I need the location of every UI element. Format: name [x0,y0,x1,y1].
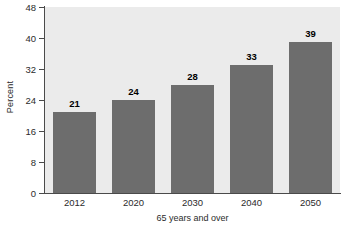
y-axis-tick [39,100,45,101]
bar [171,85,213,194]
y-axis-tick [39,193,45,194]
y-axis-tick [39,7,45,8]
y-axis-tick-label: 24 [6,95,36,106]
bar [53,112,95,193]
y-axis-tick-label: 0 [6,188,36,199]
y-axis-tick [39,69,45,70]
x-axis-tick-label: 2040 [227,197,277,208]
bar-value-label: 33 [232,51,272,62]
y-axis-tick-label: 40 [6,33,36,44]
x-axis-tick-label: 2020 [109,197,159,208]
bar [230,65,272,193]
y-axis-tick [39,38,45,39]
x-axis-tick-label: 2050 [286,197,336,208]
bar-value-label: 21 [55,98,95,109]
y-axis-tick-label: 48 [6,2,36,13]
x-axis-title: 65 years and over [45,213,340,223]
bar-value-label: 39 [291,28,331,39]
y-axis-tick-label: 32 [6,64,36,75]
bar [112,100,154,193]
y-axis-tick [39,131,45,132]
bar-value-label: 24 [114,86,154,97]
bar [289,42,331,193]
y-axis-tick [39,162,45,163]
y-axis-tick-label: 8 [6,157,36,168]
x-axis-tick-label: 2030 [168,197,218,208]
bar-chart: Percent 081624324048 2124283339 20122020… [0,0,347,232]
y-axis-tick-label: 16 [6,126,36,137]
x-axis-line [44,193,341,194]
x-axis-tick-label: 2012 [50,197,100,208]
bar-value-label: 28 [173,71,213,82]
